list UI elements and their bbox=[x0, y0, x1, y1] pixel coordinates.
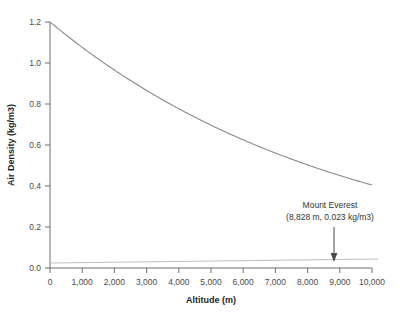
y-tick-label: 0.2 bbox=[29, 222, 41, 232]
y-tick-label: 0.8 bbox=[29, 99, 41, 109]
scan-artifact-line bbox=[50, 259, 378, 263]
y-axis-ticks: 0.0 0.2 0.4 0.6 0.8 1.0 1.2 bbox=[29, 17, 50, 273]
y-tick-label: 0.6 bbox=[29, 140, 41, 150]
x-tick-label: 6,000 bbox=[233, 277, 255, 287]
y-tick-label: 1.0 bbox=[29, 58, 41, 68]
x-tick-label: 0 bbox=[48, 277, 53, 287]
x-axis-ticks: 0 1,000 2,000 3,000 4,000 5,000 6,000 7,… bbox=[48, 268, 386, 287]
y-tick-label: 0.4 bbox=[29, 181, 41, 191]
x-tick-label: 1,000 bbox=[72, 277, 94, 287]
x-tick-label: 7,000 bbox=[265, 277, 287, 287]
chart-svg: 0.0 0.2 0.4 0.6 0.8 1.0 1.2 0 1,000 2,00… bbox=[0, 0, 399, 318]
x-tick-label: 5,000 bbox=[200, 277, 222, 287]
x-axis-title: Altitude (m) bbox=[186, 295, 236, 305]
annotation-line-1: Mount Everest bbox=[303, 200, 358, 210]
x-tick-label: 2,000 bbox=[104, 277, 126, 287]
x-tick-label: 8,000 bbox=[297, 277, 319, 287]
x-tick-label: 3,000 bbox=[136, 277, 158, 287]
y-tick-label: 0.0 bbox=[29, 263, 41, 273]
x-tick-label: 10,000 bbox=[359, 277, 385, 287]
x-tick-label: 9,000 bbox=[329, 277, 351, 287]
x-tick-label: 4,000 bbox=[168, 277, 190, 287]
air-density-curve bbox=[50, 22, 372, 185]
y-axis-title: Air Density (kg/m3) bbox=[6, 104, 16, 186]
y-tick-label: 1.2 bbox=[29, 17, 41, 27]
air-density-chart: 0.0 0.2 0.4 0.6 0.8 1.0 1.2 0 1,000 2,00… bbox=[0, 0, 399, 318]
annotation-line-2: (8,828 m, 0.023 kg/m3) bbox=[286, 212, 374, 222]
mount-everest-annotation: Mount Everest (8,828 m, 0.023 kg/m3) bbox=[286, 200, 374, 262]
annotation-arrow-head bbox=[331, 253, 338, 262]
